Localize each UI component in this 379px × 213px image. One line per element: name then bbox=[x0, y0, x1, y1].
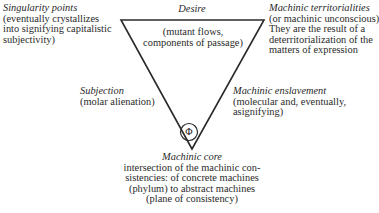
machinic-territorialities-title: Machinic territorialities bbox=[269, 3, 379, 14]
subjection-title: Subjection bbox=[80, 86, 155, 97]
machinic-core-line-4: (plane of consistency) bbox=[117, 194, 267, 205]
machinic-enslavement-title: Machinic enslavement bbox=[233, 86, 346, 97]
machinic-enslavement-line-2: asignifying) bbox=[233, 107, 346, 118]
singularity-points-label: Singularity points (eventually crystalli… bbox=[3, 3, 112, 45]
machinic-enslavement-label: Machinic enslavement (molecular and, eve… bbox=[233, 86, 346, 118]
machinic-core-label: Machinic core intersection of the machin… bbox=[117, 152, 267, 205]
singularity-points-title: Singularity points bbox=[3, 3, 112, 14]
subjection-label: Subjection (molar alienation) bbox=[80, 86, 155, 107]
subjection-line-1: (molar alienation) bbox=[80, 97, 155, 108]
desire-title: Desire bbox=[162, 4, 222, 15]
phi-symbol-icon: Φ bbox=[181, 127, 197, 137]
mutant-flows-label: (mutant flows, components of passage) bbox=[137, 27, 249, 48]
machinic-territorialities-label: Machinic territorialities (or machinic u… bbox=[269, 3, 379, 56]
machinic-territorialities-line-4: matters of expression bbox=[269, 45, 379, 56]
desire-label: Desire bbox=[162, 4, 222, 15]
machinic-core-title: Machinic core bbox=[117, 152, 267, 163]
mutant-flows-line-2: components of passage) bbox=[137, 38, 249, 49]
mutant-flows-line-1: (mutant flows, bbox=[137, 27, 249, 38]
singularity-points-line-3: subjectivity) bbox=[3, 35, 112, 46]
